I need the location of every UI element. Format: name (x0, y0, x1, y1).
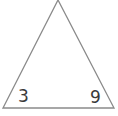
bottom-left-angle-label: 3 (18, 88, 29, 105)
bottom-right-angle-label: 9 (90, 89, 101, 106)
